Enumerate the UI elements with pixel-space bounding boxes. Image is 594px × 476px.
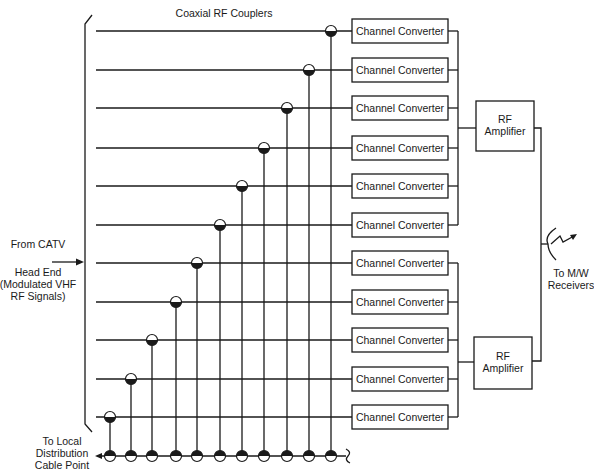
upper-rf-amplifier: RF Amplifier (476, 101, 534, 151)
input-label-line4: RF Signals) (11, 290, 66, 302)
couplers-title: Coaxial RF Couplers (176, 7, 273, 19)
channel-converter-label: Channel Converter (356, 296, 445, 308)
channel-converter-label: Channel Converter (356, 180, 445, 192)
input-label-line1: From CATV (11, 238, 66, 250)
input-label-line2: Head End (15, 266, 62, 278)
input-label-line3: (Modulated VHF (0, 278, 76, 290)
channel-converter: Channel Converter (352, 19, 448, 43)
channel-converter: Channel Converter (352, 328, 448, 352)
channel-converter-label: Channel Converter (356, 257, 445, 269)
channel-converter: Channel Converter (352, 58, 448, 82)
coax-coupler-icon (147, 335, 158, 346)
upper-amp-label-line1: RF (498, 113, 512, 125)
rail-tap-coupler-icon (237, 451, 248, 462)
rail-tap-coupler-icon (304, 451, 315, 462)
input-bus-bracket (85, 15, 92, 432)
channel-row: Channel Converter (96, 328, 458, 456)
channel-converter: Channel Converter (352, 405, 448, 429)
rail-tap-coupler-icon (215, 451, 226, 462)
lower-amp-label-line1: RF (496, 350, 510, 362)
rail-tap-coupler-icon (192, 451, 203, 462)
input-arrow (52, 259, 84, 266)
channel-converter: Channel Converter (352, 136, 448, 160)
channel-converter: Channel Converter (352, 174, 448, 198)
channel-converter: Channel Converter (352, 213, 448, 237)
channel-converter-label: Channel Converter (356, 219, 445, 231)
channel-converter-label: Channel Converter (356, 102, 445, 114)
output-trunk (532, 128, 541, 361)
catv-distribution-diagram: Coaxial RF Couplers From CATV Head End (… (0, 0, 594, 476)
coax-coupler-icon (215, 220, 226, 231)
channel-converter-label: Channel Converter (356, 373, 445, 385)
rail-tap-coupler-icon (326, 451, 337, 462)
coax-coupler-icon (126, 374, 137, 385)
channel-converter: Channel Converter (352, 367, 448, 391)
lower-amp-label-line2: Amplifier (483, 362, 524, 374)
channel-converter: Channel Converter (352, 96, 448, 120)
coax-coupler-icon (171, 297, 182, 308)
channel-rows: Channel ConverterChannel ConverterChanne… (96, 19, 458, 456)
rail-tap-coupler-icon (259, 451, 270, 462)
rail-tap-coupler-icon (105, 451, 116, 462)
output-label-line2: Receivers (548, 279, 594, 291)
channel-row: Channel Converter (96, 405, 458, 456)
local-label-line1: To Local (42, 435, 81, 447)
channel-converter-label: Channel Converter (356, 25, 445, 37)
channel-converter: Channel Converter (352, 290, 448, 314)
local-label-line2: Distribution (36, 447, 89, 459)
upper-amp-label-line2: Amplifier (485, 125, 526, 137)
rail-tap-coupler-icon (282, 451, 293, 462)
coax-coupler-icon (282, 103, 293, 114)
local-label-line3: Cable Point (35, 459, 89, 471)
coax-coupler-icon (326, 26, 337, 37)
coax-coupler-icon (105, 412, 116, 423)
channel-converter: Channel Converter (352, 251, 448, 275)
channel-converter-label: Channel Converter (356, 142, 445, 154)
rail-tap-coupler-icon (147, 451, 158, 462)
microwave-antenna-icon (541, 228, 577, 260)
channel-converter-label: Channel Converter (356, 64, 445, 76)
rail-tap-coupler-icon (126, 451, 137, 462)
channel-converter-label: Channel Converter (356, 411, 445, 423)
rail-tap-coupler-icon (171, 451, 182, 462)
lower-rf-amplifier: RF Amplifier (474, 337, 532, 389)
output-label-line1: To M/W (553, 267, 589, 279)
coax-coupler-icon (259, 143, 270, 154)
channel-converter-label: Channel Converter (356, 334, 445, 346)
coax-coupler-icon (304, 65, 315, 76)
coax-coupler-icon (192, 258, 203, 269)
coax-coupler-icon (237, 181, 248, 192)
